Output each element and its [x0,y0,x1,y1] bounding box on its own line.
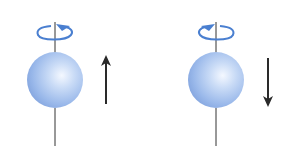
particle-spin-up [27,22,111,146]
spin-up-arrow-icon [101,55,111,104]
spin-diagram [0,0,289,156]
spin-down-arrow-icon [263,58,273,107]
sphere [27,52,83,108]
particle-spin-down [188,22,273,146]
sphere [188,52,244,108]
